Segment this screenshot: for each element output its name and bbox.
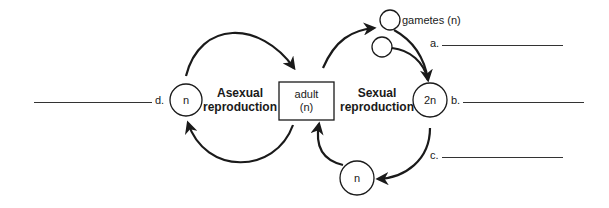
blank-b-letter: b. [451, 94, 460, 106]
blank-b-line[interactable] [463, 102, 584, 103]
sexual-line2: reproduction [340, 100, 414, 114]
blank-c-line[interactable] [442, 157, 563, 158]
blank-a-line[interactable] [442, 45, 563, 46]
blank-a-letter: a. [430, 37, 439, 49]
left-n-label: n [176, 94, 196, 106]
adult-line2: (n) [279, 101, 334, 114]
zygote-label: 2n [418, 94, 442, 106]
asexual-line2: reproduction [202, 100, 278, 114]
asexual-line1: Asexual [202, 86, 278, 100]
adult-line1: adult [279, 88, 334, 101]
blank-c-letter: c. [430, 149, 439, 161]
sexual-reproduction-label: Sexual reproduction [340, 86, 414, 114]
adult-label: adult (n) [279, 88, 334, 114]
arrow-adult-to-gametes [323, 28, 374, 68]
arrow-adult-to-n [188, 123, 293, 162]
arrow-n-to-adult-sexual [318, 124, 343, 165]
circle-gamete-2 [372, 37, 392, 57]
asexual-reproduction-label: Asexual reproduction [202, 86, 278, 114]
gametes-label: gametes (n) [402, 14, 461, 26]
blank-d-line[interactable] [34, 102, 152, 103]
arrow-n-to-adult [186, 33, 294, 76]
blank-d-letter: d. [155, 94, 164, 106]
bottom-n-label: n [347, 172, 367, 184]
circle-gamete-1 [380, 10, 400, 30]
sexual-line1: Sexual [340, 86, 414, 100]
arrow-zygote-to-n [378, 128, 430, 179]
arrow-gamete2-to-zygote [392, 48, 428, 80]
